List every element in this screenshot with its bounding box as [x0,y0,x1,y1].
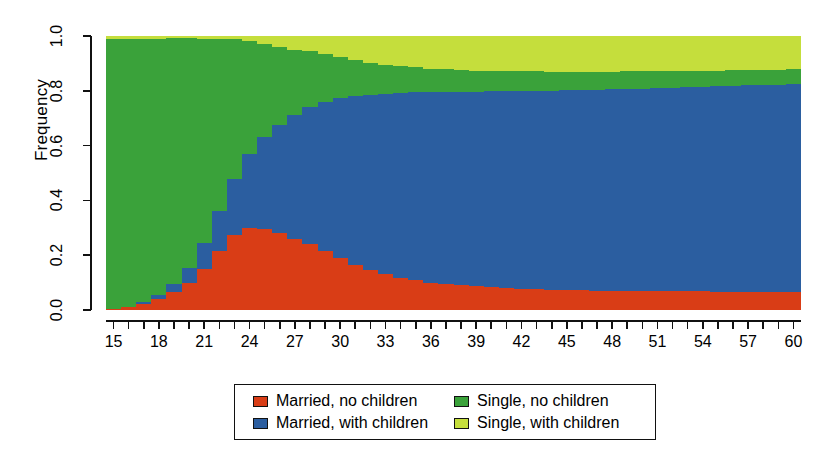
bar-segment [544,290,560,310]
bar-segment [484,71,500,92]
x-tick [385,321,387,329]
stacked-bar [741,36,757,310]
bar-segment [378,65,394,94]
x-tick [234,321,236,329]
bar-segment [242,154,258,228]
bar-segment [589,291,605,310]
bar-segment [756,70,772,85]
bar-segment [665,71,681,88]
x-tick [400,321,402,329]
stacked-bar [136,36,152,310]
bar-segment [302,51,318,107]
legend-label: Single, no children [477,393,609,409]
legend-swatch-married-no-children [253,396,268,407]
bar-segment [771,85,787,292]
stacked-bar [302,36,318,310]
x-tick-label: 21 [186,333,222,351]
bar-segment [514,289,530,310]
legend-item: Single, with children [454,415,655,431]
stacked-bar [423,36,439,310]
x-tick-label: 45 [549,333,585,351]
legend-row: Married, no children Single, no children [253,390,655,412]
y-tick [83,145,91,147]
bar-segment [499,71,515,91]
x-tick [732,321,734,329]
x-tick [672,321,674,329]
bar-segment [212,211,228,251]
bar-segment [272,47,288,125]
stacked-bar [710,36,726,310]
x-tick-label: 36 [413,333,449,351]
bar-segment [574,290,590,310]
bar-segment [695,87,711,292]
stacked-bar [287,36,303,310]
bar-segment [469,71,485,92]
x-tick-label: 15 [96,333,132,351]
x-tick-label: 42 [503,333,539,351]
bar-segment [287,239,303,310]
x-tick [445,321,447,329]
x-tick [173,321,175,329]
stacked-bar [499,36,515,310]
bar-segment [227,39,243,178]
stacked-bar [212,36,228,310]
bar-segment [620,71,636,89]
legend-swatch-single-no-children [454,396,469,407]
x-tick [219,321,221,329]
bar-segment [574,90,590,290]
legend-label: Married, no children [276,393,417,409]
bar-segment [182,283,198,310]
legend-item: Married, with children [253,415,454,431]
bar-segment [665,291,681,310]
bar-segment [272,125,288,233]
bar-segment [635,71,651,88]
bar-segment [544,91,560,290]
x-tick [536,321,538,329]
stacked-bar [454,36,470,310]
bar-segment [710,292,726,310]
bar-segment [756,292,772,310]
stacked-bar [635,36,651,310]
x-tick-label: 48 [594,333,630,351]
bar-segment [484,91,500,287]
bar-segment [287,36,303,50]
bar-segment [650,36,666,71]
bar-segment [257,36,273,44]
bar-segment [287,50,303,116]
bar-segment [605,89,621,290]
bar-segment [182,38,198,267]
bar-segment [408,36,424,67]
bar-segment [559,72,575,91]
bar-segment [363,270,379,310]
bar-segment [680,87,696,291]
x-tick [747,321,749,329]
bar-segment [272,36,288,47]
bar-segment [318,36,334,54]
bar-segment [589,72,605,90]
bar-segment [408,92,424,280]
x-axis-line [106,320,801,322]
bar-segment [318,102,334,251]
stacked-bar [378,36,394,310]
stacked-bar [318,36,334,310]
bar-segment [665,88,681,292]
x-tick [339,321,341,329]
bar-segment [710,71,726,87]
bar-segment [771,36,787,70]
bar-segment [454,36,470,70]
bar-segment [650,71,666,88]
legend-swatch-single-with-children [454,418,469,429]
bar-segment [438,284,454,310]
bar-segment [529,289,545,310]
bar-segment [710,86,726,291]
x-tick [687,321,689,329]
x-tick [430,321,432,329]
bar-segment [454,285,470,310]
bar-segment [212,251,228,310]
bar-segment [393,36,409,66]
x-tick [460,321,462,329]
bar-segment [559,290,575,310]
x-tick [521,321,523,329]
bar-segment [559,90,575,290]
stacked-bar [680,36,696,310]
